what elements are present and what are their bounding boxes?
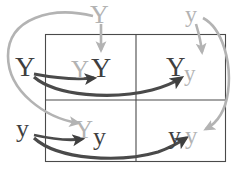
cell-top-left-allele-1: Y	[71, 57, 89, 82]
arrow-left-y-to-bottom-right	[34, 138, 186, 158]
cell-bottom-right-allele-2: y	[185, 123, 198, 148]
cell-bottom-right-allele-1: y	[168, 123, 181, 149]
parent-allele-left-bottom: y	[16, 116, 29, 142]
cell-top-right-allele-2: y	[184, 62, 196, 85]
cell-bottom-left-allele-1: Y	[75, 117, 93, 142]
parent-allele-top-left: Y	[90, 2, 109, 28]
punnett-grid	[46, 35, 226, 162]
parent-allele-left-top: Y	[15, 53, 35, 81]
parent-allele-top-right: y	[185, 2, 197, 26]
arrow-top-y-to-top-right	[196, 24, 202, 52]
cell-top-right-allele-1: Y	[166, 54, 186, 81]
punnett-square-diagram: Y y Y y Y Y Y y Y y y y	[0, 0, 232, 170]
cell-bottom-left-allele-2: y	[93, 124, 106, 150]
cell-top-left-allele-2: Y	[91, 54, 111, 82]
